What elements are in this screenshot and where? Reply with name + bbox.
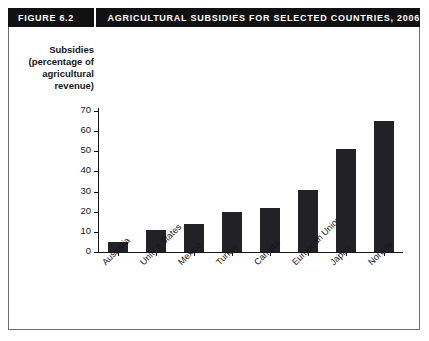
y-tick-mark [94, 252, 99, 253]
y-tick-label: 50 [80, 144, 91, 155]
y-axis-title-line-1: Subsidies [14, 44, 94, 56]
y-tick-mark [94, 212, 99, 213]
y-axis-title-line-2: (percentage of [14, 56, 94, 68]
y-axis-title: Subsidies (percentage of agricultural re… [14, 44, 94, 92]
y-tick-label: 60 [80, 124, 91, 135]
figure-container: FIGURE 6.2 AGRICULTURAL SUBSIDIES FOR SE… [0, 0, 429, 341]
bar [336, 149, 356, 252]
y-tick-label: 30 [80, 185, 91, 196]
y-tick-label: 10 [80, 225, 91, 236]
y-tick-mark [94, 131, 99, 132]
y-tick-mark [94, 232, 99, 233]
bar [374, 121, 394, 252]
figure-number-label: FIGURE 6.2 [8, 13, 94, 23]
y-tick-label: 0 [86, 245, 91, 256]
figure-title: AGRICULTURAL SUBSIDIES FOR SELECTED COUN… [96, 13, 420, 23]
y-tick-mark [94, 171, 99, 172]
y-tick-label: 40 [80, 164, 91, 175]
y-tick-mark [94, 111, 99, 112]
figure-header-bar: FIGURE 6.2 AGRICULTURAL SUBSIDIES FOR SE… [8, 8, 420, 27]
y-axis-title-line-4: revenue) [14, 80, 94, 92]
y-tick-mark [94, 151, 99, 152]
y-tick-mark [94, 192, 99, 193]
plot-area: 010203040506070AustraliaUnited StatesMex… [99, 111, 403, 252]
y-tick-label: 20 [80, 205, 91, 216]
y-tick-label: 70 [80, 104, 91, 115]
y-axis-title-line-3: agricultural [14, 68, 94, 80]
